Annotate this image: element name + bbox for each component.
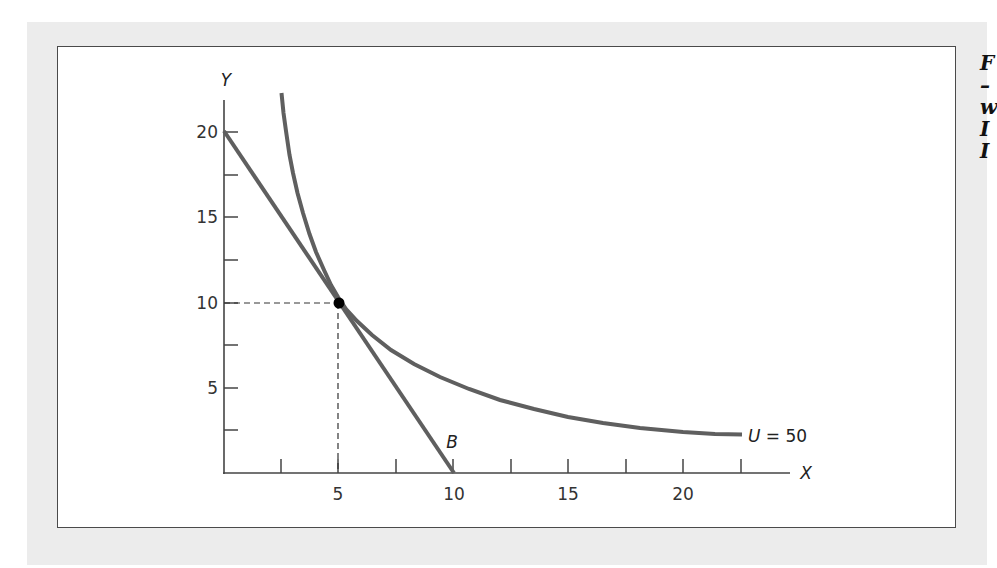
x-tick-label-20: 20: [672, 484, 694, 504]
y-tick-label-20: 20: [196, 122, 218, 142]
x-tick-label-15: 15: [557, 484, 579, 504]
tangency-point: [334, 298, 345, 309]
curve-label-value: = 50: [760, 426, 807, 446]
x-ticks: [281, 459, 741, 473]
budget-line-label: B: [446, 432, 458, 452]
y-tick-label-15: 15: [196, 207, 218, 227]
y-tick-label-5: 5: [207, 378, 218, 398]
x-tick-label-10: 10: [443, 484, 465, 504]
indifference-curve: [282, 93, 743, 435]
x-axis-title: X: [799, 463, 812, 483]
curve-label: U = 50: [748, 426, 807, 446]
y-tick-label-10: 10: [196, 293, 218, 313]
curve-label-u: U: [748, 426, 761, 446]
y-axis-title: Y: [221, 70, 233, 90]
y-ticks: [224, 132, 238, 430]
x-tick-label-5: 5: [333, 484, 344, 504]
